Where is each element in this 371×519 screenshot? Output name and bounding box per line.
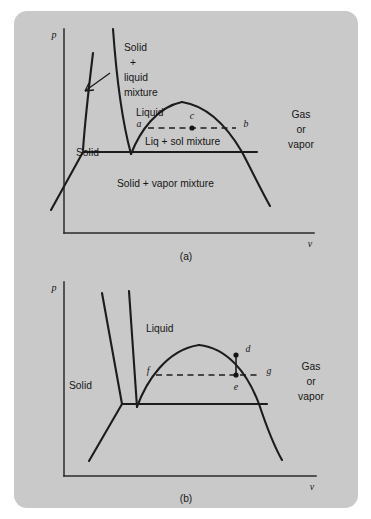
diagram-b-label-vapor: vapor (298, 391, 324, 402)
diagram-a-label-solid-plus-liquid-line3: liquid (124, 72, 148, 83)
diagram-a-label-vapor: vapor (288, 139, 314, 150)
diagram-b-fusion-line (129, 291, 137, 407)
diagram-a-point-b-label: b (244, 118, 249, 129)
diagram-b-x-axis-label: v (310, 481, 315, 492)
diagram-a-solid-left-boundary (83, 53, 93, 150)
diagram-b-point-d-marker (233, 352, 238, 357)
diagram-a-label-or: or (296, 124, 306, 135)
diagram-b: p v Solid Liquid Gas or vapor d f e g (b… (14, 262, 358, 508)
diagram-b-point-e-label: e (234, 381, 239, 392)
diagram-b-label-liquid: Liquid (146, 323, 174, 334)
diagram-b-solid-left-boundary (102, 293, 122, 404)
diagram-b-saturated-vapor-curve (199, 345, 282, 460)
diagram-a-point-c-label: c (190, 110, 195, 121)
diagram-a-caption: (a) (180, 251, 192, 262)
diagram-a-sublimation-branch (51, 152, 83, 210)
diagram-b-point-e-marker (233, 372, 238, 377)
diagram-a-label-solid-vapor-mixture: Solid + vapor mixture (117, 178, 214, 189)
diagram-b-label-or: or (306, 376, 316, 387)
diagram-a-label-solid-plus-liquid-plus-sign: + (130, 57, 136, 68)
diagram-a-label-solid: Solid (76, 147, 99, 158)
diagram-b-caption: (b) (180, 493, 192, 504)
diagram-b-saturated-liquid-curve (137, 345, 199, 407)
diagram-b-sublimation-branch (89, 404, 122, 461)
diagram-b-point-g-label: g (267, 365, 272, 376)
diagram-a-svg: p v Solid Solid + liquid mixture Liquid … (14, 11, 358, 266)
diagram-a-saturated-vapor-curve (182, 102, 270, 206)
diagram-b-label-gas: Gas (302, 361, 321, 372)
diagram-a-label-solid-plus-liquid-line4: mixture (124, 87, 158, 98)
diagram-b-label-solid: Solid (69, 380, 92, 391)
diagram-b-point-f-label: f (147, 365, 151, 376)
diagram-b-point-d-label: d (246, 343, 251, 354)
diagram-a-label-solid-plus-liquid-line1: Solid (124, 42, 147, 53)
diagram-b-svg: p v Solid Liquid Gas or vapor d f e g (b… (14, 262, 358, 508)
diagram-a-x-axis-label: v (308, 238, 313, 249)
diagram-a-label-gas: Gas (292, 109, 311, 120)
diagram-a-y-axis-label: p (51, 29, 57, 40)
diagram-a-point-a-label: a (137, 118, 142, 129)
figure-root: p v Solid Solid + liquid mixture Liquid … (0, 0, 371, 519)
diagram-b-y-axis-label: p (51, 282, 57, 293)
diagram-a-point-c-marker (189, 125, 194, 130)
diagram-a: p v Solid Solid + liquid mixture Liquid … (14, 11, 358, 266)
diagram-a-label-liquid: Liquid (136, 107, 164, 118)
diagram-a-label-liq-sol-mixture: Liq + sol mixture (145, 136, 221, 147)
